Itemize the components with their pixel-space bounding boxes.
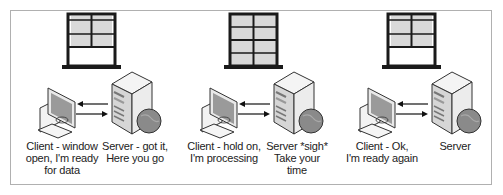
client-caption: Client - Ok,I'm ready again [340, 140, 424, 164]
server-caption-line: Here you go [102, 152, 168, 164]
server-caption-line: Server [422, 140, 488, 152]
client-caption-line: I'm processing [182, 152, 266, 164]
client-caption: Client - hold on,I'm processing [182, 140, 266, 164]
client-caption: Client - windowopen, I'm readyfor data [20, 140, 104, 176]
bidirectional-arrows-icon [396, 101, 428, 117]
globe-icon [137, 109, 161, 133]
client-caption-line: Client - Ok, [340, 140, 424, 152]
panel-3: Client - Ok,I'm ready againServer [320, 0, 485, 195]
panel-2: Client - hold on,I'm processingServer *s… [162, 0, 327, 195]
window-open-icon [382, 14, 441, 69]
bidirectional-arrows-icon [238, 101, 270, 117]
client-computer-icon [358, 88, 395, 138]
client-caption-line: I'm ready again [340, 152, 424, 164]
window-open-icon [62, 14, 121, 69]
window-closed-icon [224, 14, 283, 69]
server-caption: Server - got it,Here you go [102, 140, 168, 164]
client-computer-icon [38, 88, 75, 138]
client-caption-line: Client - window [20, 140, 104, 152]
client-caption-line: for data [20, 164, 104, 176]
client-computer-icon [200, 88, 237, 138]
bidirectional-arrows-icon [76, 101, 108, 117]
server-caption: Server [422, 140, 488, 152]
client-caption-line: open, I'm ready [20, 152, 104, 164]
client-caption-line: Client - hold on, [182, 140, 266, 152]
server-caption-line: Server - got it, [102, 140, 168, 152]
globe-icon [457, 109, 481, 133]
panel-1: Client - windowopen, I'm readyfor dataSe… [0, 0, 165, 195]
